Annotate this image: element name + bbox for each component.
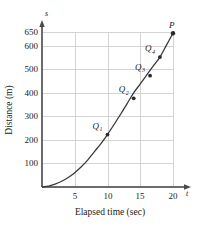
point-sublabel-q3: 3 [141,67,145,73]
y-tick-label-200: 200 [25,135,39,145]
y-axis-arrowhead [39,20,44,27]
point-sublabel-q2: 2 [126,90,129,96]
distance-vs-time-curve [42,33,173,187]
data-point-p [171,31,175,35]
y-axis-symbol: s [45,9,48,18]
axes [39,20,191,190]
x-axis-tick-labels: 5 10 15 20 [73,191,178,201]
point-label-q2: Q [119,84,126,94]
distance-time-chart-figure: 650 600 500 400 300 200 100 5 10 15 20 s… [0,0,197,237]
x-tick-label-10: 10 [104,191,114,201]
y-tick-label-500: 500 [25,64,39,74]
data-point-q4 [158,55,162,59]
x-axis-title: Elapsed time (sec) [75,207,145,218]
y-axis-title: Distance (m) [4,85,15,134]
point-sublabel-q1: 1 [100,126,103,132]
point-label-q1: Q [93,121,100,131]
x-tick-label-15: 15 [136,191,146,201]
x-tick-label-20: 20 [169,191,179,201]
y-tick-label-600: 600 [25,41,39,51]
x-axis-symbol: t [186,189,189,198]
y-tick-label-650: 650 [25,27,39,37]
data-point-q3 [148,74,152,78]
chart-canvas: 650 600 500 400 300 200 100 5 10 15 20 s… [0,0,197,237]
y-tick-label-100: 100 [25,158,39,168]
x-tick-label-5: 5 [73,191,78,201]
point-label-q4: Q [145,43,152,53]
data-point-q1 [106,133,110,137]
point-sublabel-q4: 4 [152,49,155,55]
data-point-q2 [132,96,136,100]
point-label-p: P [168,20,175,30]
point-label-q3: Q [135,62,142,72]
y-tick-label-300: 300 [25,111,39,121]
y-axis-tick-labels: 650 600 500 400 300 200 100 [25,27,39,168]
y-tick-label-400: 400 [25,88,39,98]
point-labels: Q 1 Q 2 Q 3 Q 4 P [93,20,176,132]
